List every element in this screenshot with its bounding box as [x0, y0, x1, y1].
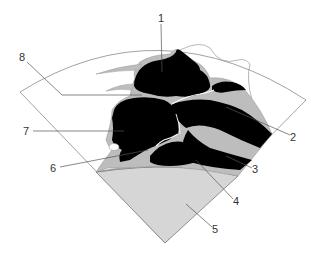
diagram-canvas [0, 0, 324, 265]
echo-sector-diagram: 1 2 3 4 5 6 7 8 [0, 0, 324, 265]
label-5: 5 [212, 224, 218, 235]
label-7: 7 [23, 126, 29, 137]
label-8: 8 [19, 52, 25, 63]
label-1: 1 [158, 13, 164, 24]
label-6: 6 [50, 163, 56, 174]
label-4: 4 [233, 196, 239, 207]
label-3: 3 [252, 164, 258, 175]
pericardial-nodule [109, 144, 119, 151]
label-2: 2 [290, 132, 296, 143]
